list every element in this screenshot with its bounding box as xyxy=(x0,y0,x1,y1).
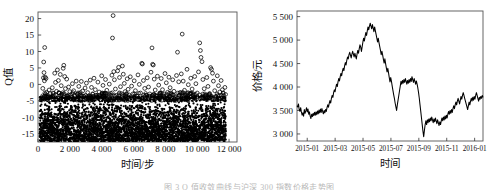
scatter-point xyxy=(128,140,130,142)
scatter-point xyxy=(155,118,157,120)
scatter-point xyxy=(72,122,74,124)
scatter-point xyxy=(136,140,138,142)
scatter-point xyxy=(185,122,187,124)
scatter-point xyxy=(141,101,143,103)
scatter-point xyxy=(48,114,50,116)
scatter-point xyxy=(103,122,105,124)
scatter-point xyxy=(204,125,206,127)
scatter-point xyxy=(43,132,45,134)
scatter-point xyxy=(118,140,120,142)
scatter-point xyxy=(143,128,145,130)
scatter-point xyxy=(161,136,163,138)
scatter-point xyxy=(126,108,128,110)
scatter-point xyxy=(219,109,221,111)
scatter-point xyxy=(85,136,87,138)
y-axis-title: 价格/元 xyxy=(251,59,263,93)
scatter-point xyxy=(70,137,72,139)
scatter-point xyxy=(204,130,206,132)
y-axis-tick-label: 5 500 xyxy=(273,12,294,22)
scatter-point xyxy=(73,131,75,133)
scatter-point xyxy=(42,113,44,115)
scatter-point xyxy=(138,132,140,134)
scatter-point xyxy=(214,114,216,116)
scatter-point xyxy=(67,103,69,105)
y-axis-tick-label: 5 000 xyxy=(273,35,294,45)
scatter-point xyxy=(182,109,184,111)
scatter-point xyxy=(110,114,112,116)
scatter-point xyxy=(179,119,181,121)
scatter-point xyxy=(157,128,159,130)
scatter-point xyxy=(161,122,163,124)
scatter-point xyxy=(102,109,104,111)
scatter-point xyxy=(70,140,72,142)
scatter-point xyxy=(218,121,220,123)
scatter-point xyxy=(155,110,157,112)
scatter-point xyxy=(204,133,206,135)
scatter-point xyxy=(130,128,132,130)
scatter-point xyxy=(62,124,64,126)
scatter-point xyxy=(117,136,119,138)
scatter-point xyxy=(60,110,62,112)
scatter-point xyxy=(184,137,186,139)
scatter-point xyxy=(117,124,119,126)
scatter-point xyxy=(203,128,205,130)
scatter-point xyxy=(90,106,92,108)
scatter-point xyxy=(138,140,140,142)
scatter-point xyxy=(55,139,57,141)
scatter-point xyxy=(44,103,46,105)
scatter-point xyxy=(112,113,114,115)
scatter-point xyxy=(150,133,152,135)
scatter-point xyxy=(74,118,76,120)
x-axis-title: 时间/步 xyxy=(121,158,154,170)
scatter-point xyxy=(147,135,149,137)
scatter-point xyxy=(75,136,77,138)
scatter-point xyxy=(164,130,166,132)
scatter-point xyxy=(223,136,225,138)
scatter-point xyxy=(149,126,151,128)
scatter-point xyxy=(172,107,174,109)
scatter-point xyxy=(83,125,85,127)
scatter-point xyxy=(209,132,211,134)
scatter-point xyxy=(183,131,185,133)
scatter-point xyxy=(109,118,111,120)
scatter-point xyxy=(139,116,141,118)
x-axis-tick-label: 2015-05 xyxy=(351,145,375,153)
scatter-point xyxy=(201,129,203,131)
scatter-point xyxy=(89,129,91,131)
scatter-point xyxy=(192,138,194,140)
scatter-point xyxy=(139,130,141,132)
scatter-point xyxy=(223,120,225,122)
scatter-point xyxy=(132,135,134,137)
scatter-point xyxy=(119,134,121,136)
scatter-point xyxy=(139,104,141,106)
scatter-point xyxy=(192,100,194,102)
scatter-point xyxy=(154,138,156,140)
scatter-point xyxy=(220,127,222,129)
scatter-point xyxy=(77,106,79,108)
scatter-point xyxy=(141,118,143,120)
scatter-point xyxy=(157,107,159,109)
scatter-point xyxy=(127,111,129,113)
scatter-point xyxy=(122,136,124,138)
scatter-point xyxy=(185,129,187,131)
y-axis-tick-label: -10 xyxy=(22,113,34,123)
scatter-point xyxy=(88,123,90,125)
scatter-point xyxy=(63,138,65,140)
scatter-point xyxy=(95,137,97,139)
scatter-point xyxy=(61,108,63,110)
y-axis-tick-label: 4 500 xyxy=(273,59,294,69)
scatter-point xyxy=(224,110,226,112)
scatter-point xyxy=(81,140,83,142)
scatter-point xyxy=(195,109,197,111)
scatter-point xyxy=(125,105,127,107)
scatter-point xyxy=(202,134,204,136)
scatter-point xyxy=(150,121,152,123)
scatter-point xyxy=(156,139,158,141)
scatter-point xyxy=(125,135,127,137)
y-axis-tick-label: 15 xyxy=(25,30,35,40)
scatter-point xyxy=(195,100,197,102)
scatter-point xyxy=(94,116,96,118)
scatter-point xyxy=(48,106,50,108)
scatter-point xyxy=(120,104,122,106)
scatter-point xyxy=(92,102,94,104)
